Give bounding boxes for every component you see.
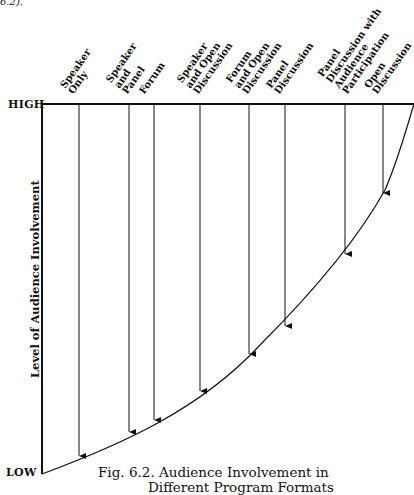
figure-caption-line2: Different Program Formats	[148, 480, 334, 495]
format-arrows	[79, 104, 383, 456]
figure-caption-line1: Fig. 6.2. Audience Involvement in	[98, 465, 329, 480]
high-label: HIGH	[8, 98, 45, 111]
involvement-curve	[42, 104, 414, 474]
y-axis-title: Level of Audience Involvement	[28, 180, 42, 378]
low-label: LOW	[6, 466, 37, 479]
